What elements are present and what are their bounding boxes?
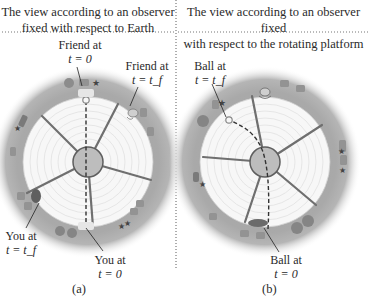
label-ball-tf: Ball at t = t_f — [188, 59, 232, 87]
label-friend-tf: Friend at t = t_f — [118, 59, 176, 87]
ball-b — [226, 117, 232, 123]
label-you-t0: You at t = 0 — [88, 253, 132, 281]
caption-a-line1: The view according to an observer — [0, 4, 176, 20]
hub-a — [73, 147, 103, 177]
svg-text:★: ★ — [14, 124, 21, 133]
friend-ghost-t0 — [78, 89, 94, 97]
you-figure-b — [248, 219, 268, 227]
panel-letter-a: (a) — [72, 282, 86, 297]
label-ball-t0-line1: Ball at — [264, 253, 308, 267]
label-friend-t0-line1: Friend at — [52, 38, 108, 52]
label-friend-t0: Friend at t = 0 — [52, 38, 108, 66]
platform-b: ★ ★ ★ ★ — [169, 66, 361, 258]
label-ball-tf-line1: Ball at — [188, 59, 232, 73]
label-ball-tf-line2: t = t_f — [188, 73, 232, 87]
svg-text:★: ★ — [339, 166, 346, 175]
ball-a — [83, 97, 89, 103]
caption-b-line1: The view according to an observer fixed — [177, 4, 370, 36]
svg-text:★: ★ — [92, 78, 100, 88]
svg-text:★: ★ — [338, 147, 345, 156]
label-you-tf-line2: t = t_f — [0, 243, 42, 257]
label-you-t0-line2: t = 0 — [88, 267, 132, 281]
svg-text:★: ★ — [218, 98, 226, 108]
label-ball-t0: Ball at t = 0 — [264, 253, 308, 281]
svg-text:★: ★ — [124, 219, 131, 228]
caption-a: The view according to an observer fixed … — [0, 4, 176, 36]
label-you-t0-line1: You at — [88, 253, 132, 267]
label-friend-tf-line1: Friend at — [118, 59, 176, 73]
you-figure-tf — [31, 189, 41, 203]
label-ball-t0-line2: t = 0 — [264, 267, 308, 281]
svg-text:★: ★ — [199, 180, 206, 189]
panel-letter-b: (b) — [262, 282, 277, 297]
caption-b-line2: with respect to the rotating platform — [177, 36, 370, 52]
label-you-tf: You at t = t_f — [0, 229, 42, 257]
caption-b: The view according to an observer fixed … — [177, 4, 370, 52]
label-you-tf-line1: You at — [0, 229, 42, 243]
you-ghost-t0 — [78, 222, 94, 230]
label-friend-tf-line2: t = t_f — [118, 73, 176, 87]
label-friend-t0-line2: t = 0 — [52, 52, 108, 66]
caption-a-line2: fixed with respect to Earth — [0, 20, 176, 36]
